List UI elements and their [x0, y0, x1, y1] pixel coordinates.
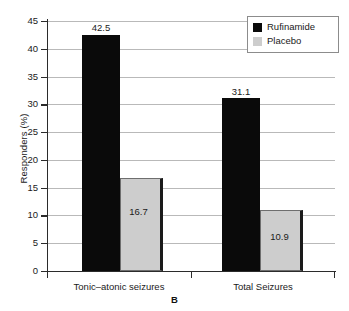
x-axis-label-tonic-atonic-seizures: Tonic–atonic seizures: [49, 281, 189, 292]
legend-item-placebo: Placebo: [253, 34, 334, 48]
bar-value-rufinamide-total: 31.1: [216, 86, 266, 97]
panel-label-b: B: [0, 294, 349, 305]
bar-placebo-tonic-atonic: [120, 178, 163, 271]
y-tick-mark-10: [41, 215, 47, 216]
y-tick-mark-5: [41, 243, 47, 244]
legend-item-rufinamide: Rufinamide: [253, 20, 334, 34]
x-tick-mark-middle: [191, 272, 192, 278]
y-tick-label-15: 15: [8, 183, 38, 193]
y-tick-label-5: 5: [8, 238, 38, 248]
bar-value-placebo-total: 10.9: [257, 231, 302, 242]
y-tick-label-30: 30: [8, 99, 38, 109]
y-tick-mark-25: [41, 132, 47, 133]
y-tick-mark-30: [41, 104, 47, 105]
y-tick-mark-20: [41, 160, 47, 161]
y-tick-label-10: 10: [8, 210, 38, 220]
bar-value-rufinamide-tonic-atonic: 42.5: [76, 22, 126, 33]
legend-swatch-icon-placebo: [253, 37, 262, 46]
x-tick-mark-left: [47, 272, 48, 278]
y-tick-label-25: 25: [8, 127, 38, 137]
y-tick-label-0: 0: [8, 266, 38, 276]
y-tick-mark-35: [41, 77, 47, 78]
y-tick-mark-45: [41, 21, 47, 22]
y-tick-mark-15: [41, 188, 47, 189]
legend: Rufinamide Placebo: [247, 16, 339, 53]
bar-value-placebo-tonic-atonic: 16.7: [116, 206, 161, 217]
y-axis-line: [47, 19, 48, 272]
y-tick-label-45: 45: [8, 16, 38, 26]
y-axis-title: Responders (%): [18, 69, 29, 229]
y-tick-label-20: 20: [8, 155, 38, 165]
legend-label-placebo: Placebo: [267, 36, 301, 46]
legend-label-rufinamide: Rufinamide: [267, 22, 315, 32]
y-tick-label-35: 35: [8, 72, 38, 82]
y-tick-mark-40: [41, 49, 47, 50]
bar-rufinamide-total: [222, 98, 260, 271]
x-axis-label-total-seizures: Total Seizures: [193, 281, 333, 292]
legend-swatch-icon-rufinamide: [253, 23, 262, 32]
x-tick-mark-right: [334, 272, 335, 278]
y-tick-label-40: 40: [8, 44, 38, 54]
bar-chart-figure: Responders (%) 45 40 35 30 25 20 15 10 5…: [0, 0, 349, 311]
bar-rufinamide-tonic-atonic: [82, 35, 120, 271]
